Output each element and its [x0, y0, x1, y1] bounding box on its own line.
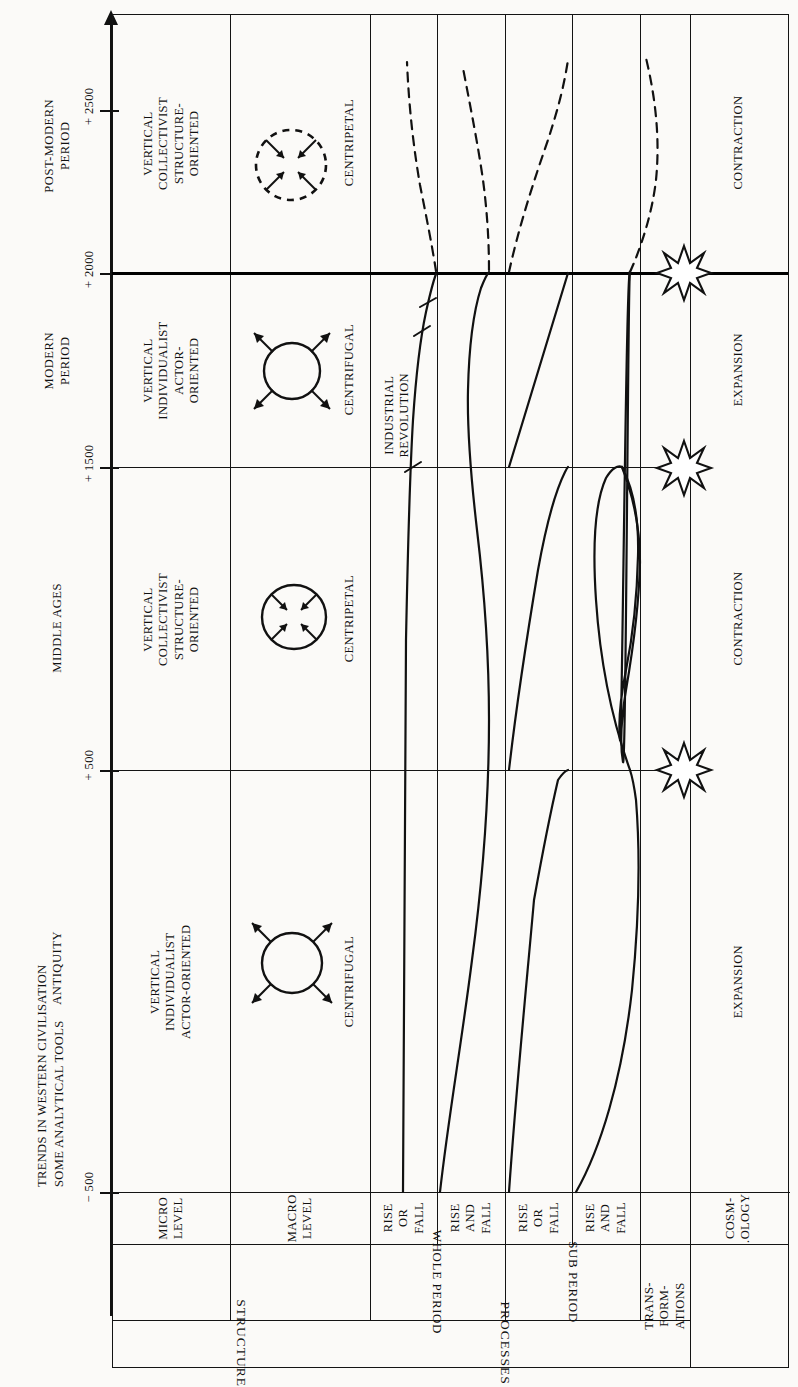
axis-label-500: + 500	[0, 742, 90, 757]
group-header-sub-period: SUB PERIOD	[505, 1244, 640, 1320]
industrial-revolution-annotation: INDUSTRIAL REVOLUTION	[375, 330, 419, 500]
macro-label-modern: CENTRIFUGAL	[330, 273, 370, 467]
macro-label-antiquity: CENTRIFUGAL	[330, 771, 370, 1192]
header-macro-level: MACRO LEVEL	[230, 1192, 370, 1244]
rule-processes-transformations	[640, 14, 641, 1320]
header-rise-and-fall-whole: RISE AND FALL	[437, 1192, 505, 1244]
header-cosmology: COSM- .OLOGY	[690, 1192, 788, 1244]
transformation-cell-antiquity: EXPANSION	[690, 771, 788, 1192]
micro-cell-middle-ages: VERTICAL COLLECTIVIST STRUCTURE-ORIENTED	[112, 468, 230, 770]
band-transformations: TRANS- FORM- ATIONS	[640, 1244, 690, 1367]
transformation-cell-modern: EXPANSION	[690, 273, 788, 467]
macro-label-middle-ages: CENTRIPETAL	[330, 468, 370, 770]
dashed-circle-inward-arrows-icon	[246, 120, 336, 210]
micro-cell-post-modern: VERTICAL COLLECTIVIST STRUCTURE- ORIENTE…	[112, 14, 230, 272]
axis-label-2000: + 2000	[0, 243, 90, 258]
transformation-cell-post-modern: CONTRACTION	[690, 14, 788, 272]
band-structure: STRUCTURE	[112, 1320, 370, 1367]
solid-circle-outward-arrows-icon-antiquity	[244, 915, 340, 1011]
solid-circle-outward-arrows-icon-modern	[246, 325, 338, 417]
group-header-whole-period: WHOLE PERIOD	[370, 1244, 505, 1320]
axis-label-1500: + 1500	[0, 437, 90, 452]
figure-plate: TRENDS IN WESTERN CIVILISATION SOME ANAL…	[0, 0, 798, 1387]
solid-circle-inward-arrows-icon	[252, 575, 336, 659]
header-rise-or-fall-whole: RISE OR FALL	[370, 1192, 437, 1244]
axis-label-2500: + 2500	[0, 80, 90, 95]
header-rise-or-fall-sub: RISE OR FALL	[505, 1192, 572, 1244]
band-processes: PROCESSES	[370, 1320, 640, 1367]
micro-cell-antiquity: VERTICAL INDIVIDUALIST ACTOR-ORIENTED	[112, 771, 230, 1192]
header-rise-and-fall-sub: RISE AND FALL	[572, 1192, 640, 1244]
header-micro-level: MICRO LEVEL	[112, 1192, 230, 1244]
axis-label-minus-500: − 500	[0, 1164, 90, 1179]
rule-structure-processes	[370, 14, 371, 1320]
rule-p1-p2	[437, 14, 438, 1244]
rule-micro-macro	[230, 14, 231, 1320]
micro-cell-modern: VERTICAL INDIVIDUALIST ACTOR- ORIENTED	[112, 273, 230, 467]
rule-wholeperiod-subperiod	[505, 14, 506, 1320]
transformation-cell-middle-ages: CONTRACTION	[690, 468, 788, 770]
macro-label-post-modern: CENTRIPETAL	[330, 14, 370, 272]
rule-p3-p4	[572, 14, 573, 1244]
